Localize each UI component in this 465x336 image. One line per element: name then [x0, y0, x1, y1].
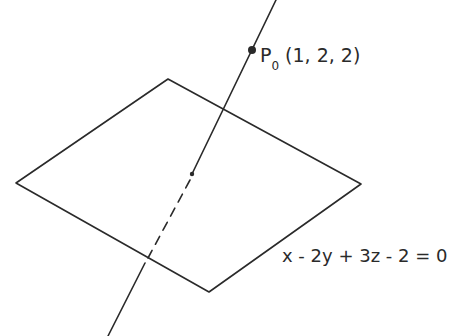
- point-coords: (1, 2, 2): [285, 44, 360, 66]
- plane-equation-label: x - 2y + 3z - 2 = 0: [282, 245, 448, 266]
- line-lower-segment: [108, 263, 145, 336]
- line-hidden-segment: [148, 180, 190, 258]
- point-name: P: [260, 44, 271, 66]
- point-p0-dot: [248, 46, 256, 54]
- point-p0-label: P0(1, 2, 2): [260, 44, 360, 73]
- line-upper-segment: [192, 0, 276, 174]
- intersection-point-dot: [190, 172, 194, 176]
- point-subscript: 0: [271, 59, 279, 73]
- diagram-canvas: P0(1, 2, 2) x - 2y + 3z - 2 = 0: [0, 0, 465, 336]
